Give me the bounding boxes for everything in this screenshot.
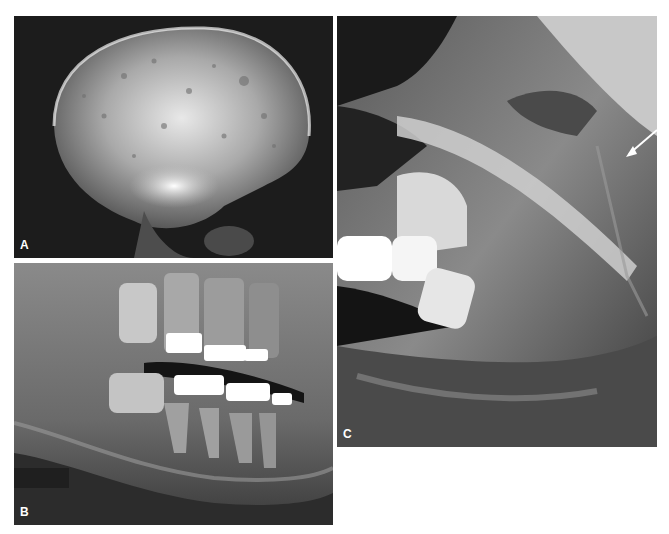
panoramic-xray-image xyxy=(14,263,333,525)
panel-label-a: A xyxy=(20,238,29,252)
panel-a-skull-radiograph: A xyxy=(14,16,333,258)
skull-xray-image xyxy=(14,16,333,258)
jaw-xray-image xyxy=(337,16,657,447)
panel-label-c: C xyxy=(343,427,352,441)
panel-label-b: B xyxy=(20,505,29,519)
panel-b-panoramic-radiograph: B xyxy=(14,263,333,525)
panel-c-jaw-radiograph: C xyxy=(337,16,657,447)
